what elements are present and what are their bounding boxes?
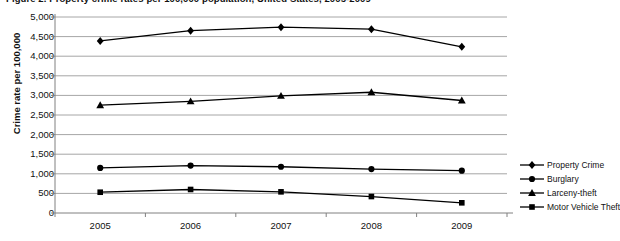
- data-point-diamond: [529, 161, 536, 169]
- data-point-diamond: [458, 43, 465, 51]
- legend-label: Property Crime: [547, 161, 604, 170]
- legend-marker-diamond-icon: [519, 159, 545, 171]
- data-point-circle: [459, 168, 465, 174]
- legend-marker-square-icon: [519, 201, 545, 213]
- legend-marker-circle-icon: [519, 173, 545, 185]
- legend-marker-triangle-icon: [519, 187, 545, 199]
- data-point-circle: [188, 162, 194, 168]
- legend-label: Burglary: [547, 175, 579, 184]
- data-point-circle: [278, 164, 284, 170]
- data-point-square: [97, 189, 103, 195]
- legend-item-larceny-theft[interactable]: Larceny-theft: [519, 186, 620, 200]
- data-point-circle: [529, 176, 535, 182]
- legend-item-burglary[interactable]: Burglary: [519, 172, 620, 186]
- legend-label: Larceny-theft: [547, 189, 597, 198]
- data-point-diamond: [97, 37, 104, 45]
- legend-item-property-crime[interactable]: Property Crime: [519, 158, 620, 172]
- data-point-diamond: [368, 25, 375, 33]
- legend-label: Motor Vehicle Theft: [547, 203, 620, 212]
- data-point-square: [369, 194, 375, 200]
- data-point-square: [459, 200, 465, 206]
- chart-container: Figure 2. Property crime rates per 100,0…: [0, 0, 620, 241]
- chart-legend: Property CrimeBurglaryLarceny-theftMotor…: [519, 158, 620, 214]
- data-point-square: [278, 189, 284, 195]
- data-point-diamond: [278, 23, 285, 31]
- data-point-circle: [368, 166, 374, 172]
- data-point-circle: [97, 165, 103, 171]
- data-point-square: [529, 204, 535, 210]
- data-point-square: [188, 187, 194, 193]
- data-point-diamond: [187, 27, 194, 35]
- legend-item-motor-vehicle-theft[interactable]: Motor Vehicle Theft: [519, 200, 620, 214]
